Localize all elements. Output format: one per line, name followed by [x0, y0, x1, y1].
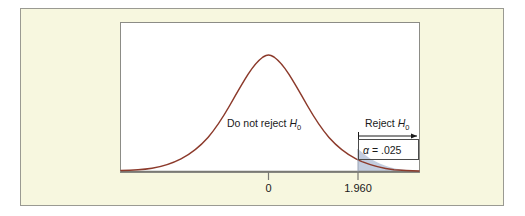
x-tick-label-0: 0 — [265, 182, 271, 194]
do-not-reject-h-subscript: 0 — [297, 123, 301, 132]
reject-h-subscript: 0 — [405, 123, 409, 132]
alpha-callout-text: α = .025 — [363, 144, 402, 156]
alpha-value: .025 — [381, 144, 402, 156]
do-not-reject-label: Do not reject H0 — [227, 117, 301, 132]
figure-root: 0 1.960 Do not reject H0 Reject H0 α = .… — [0, 0, 525, 216]
reject-label: Reject H0 — [365, 117, 409, 132]
reject-text: Reject — [365, 117, 398, 129]
x-tick-label-critical: 1.960 — [344, 182, 372, 194]
do-not-reject-text: Do not reject — [227, 117, 289, 129]
alpha-equals: = — [369, 144, 381, 156]
normal-distribution-chart: 0 1.960 Do not reject H0 Reject H0 α = .… — [0, 0, 525, 216]
